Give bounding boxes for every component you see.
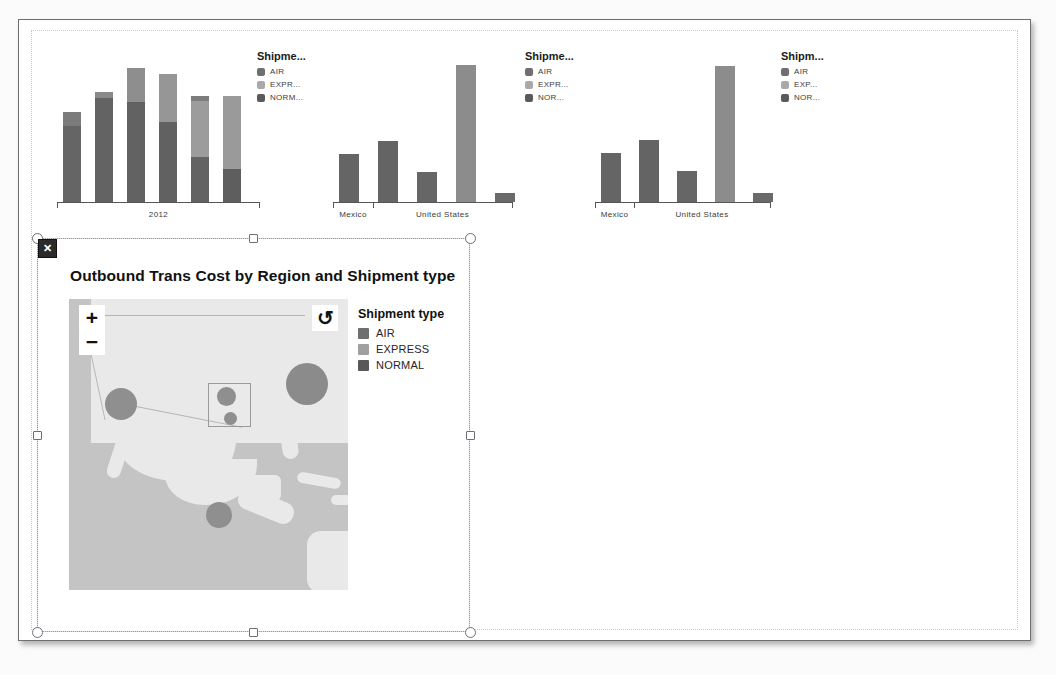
legend-item-air[interactable]: AIR xyxy=(781,67,824,76)
axis-tick xyxy=(333,202,334,208)
legend-swatch-air xyxy=(781,68,789,76)
bar-segment-normal xyxy=(95,98,113,202)
zoom-in-icon[interactable]: + xyxy=(86,306,98,330)
map-zoom-controls[interactable]: + − xyxy=(79,305,105,355)
mini-chart-1[interactable]: 2012 Shipme... AIR EXPR... NORM... xyxy=(39,34,329,214)
resize-handle-top-right[interactable] xyxy=(465,233,476,244)
bar-column[interactable] xyxy=(753,44,773,202)
bar-segment-normal xyxy=(127,102,145,202)
bar-column[interactable] xyxy=(715,44,735,202)
selected-visualization-panel[interactable]: Outbound Trans Cost by Region and Shipme… xyxy=(37,238,470,632)
legend-swatch-normal xyxy=(257,94,265,102)
axis-tick xyxy=(634,202,635,208)
legend-label: AIR xyxy=(270,67,284,76)
bar-column[interactable] xyxy=(639,44,659,202)
legend-label: NOR... xyxy=(794,93,820,102)
bar-column[interactable] xyxy=(495,44,515,202)
bar-column[interactable] xyxy=(339,44,359,202)
map-bubble-mexico[interactable] xyxy=(206,502,232,528)
zoom-out-icon[interactable]: − xyxy=(86,330,98,354)
x-axis-label-united-states: United States xyxy=(634,210,770,219)
axis-tick xyxy=(373,202,374,208)
axis-tick xyxy=(512,202,513,208)
legend-label: NORM... xyxy=(270,93,303,102)
legend-swatch-normal xyxy=(358,360,369,371)
delete-visualization-button[interactable]: ✕ xyxy=(38,239,57,258)
resize-handle-bottom-left[interactable] xyxy=(32,627,43,638)
bar-column[interactable] xyxy=(456,44,476,202)
legend-item-express[interactable]: EXPR... xyxy=(257,80,306,89)
bar-column[interactable] xyxy=(191,44,209,202)
axis-tick xyxy=(770,202,771,208)
resize-handle-bottom-right[interactable] xyxy=(465,627,476,638)
legend-title: Shipment type xyxy=(358,307,444,321)
legend-swatch-express xyxy=(358,344,369,355)
bar-column[interactable] xyxy=(601,44,621,202)
axis-tick xyxy=(595,202,596,208)
legend-item-express[interactable]: EXP... xyxy=(781,80,824,89)
x-axis-line xyxy=(595,202,771,203)
bar-column[interactable] xyxy=(417,44,437,202)
bar-column[interactable] xyxy=(677,44,697,202)
legend-label: EXPR... xyxy=(270,80,301,89)
bar-segment-normal xyxy=(495,193,515,202)
axis-tick xyxy=(259,202,260,208)
bar-segment-express xyxy=(127,68,145,102)
legend-title: Shipm... xyxy=(781,50,824,62)
legend-item-normal[interactable]: NORM... xyxy=(257,93,306,102)
bar-segment-normal xyxy=(223,169,241,202)
map-land-hispaniola xyxy=(331,495,348,505)
legend-swatch-air xyxy=(358,328,369,339)
legend-label: AIR xyxy=(538,67,552,76)
bar-segment-normal xyxy=(601,153,621,202)
map-bubble-east-coast[interactable] xyxy=(286,363,328,405)
bar-segment-normal xyxy=(417,172,437,202)
legend-item-air[interactable]: AIR xyxy=(358,327,444,339)
legend-label: AIR xyxy=(794,67,808,76)
mini-chart-2-bars xyxy=(339,44,531,202)
legend-item-normal[interactable]: NORMAL xyxy=(358,359,444,371)
bar-segment-normal xyxy=(715,66,735,202)
bubble-map[interactable]: + − ↺ xyxy=(69,299,348,590)
resize-handle-middle-left[interactable] xyxy=(33,431,42,440)
legend-label: NORMAL xyxy=(376,359,424,371)
legend-swatch-air xyxy=(525,68,533,76)
legend-item-express[interactable]: EXPRESS xyxy=(358,343,444,355)
map-bubble-central-small[interactable] xyxy=(224,412,237,425)
legend-item-air[interactable]: AIR xyxy=(257,67,306,76)
legend-label: EXP... xyxy=(794,80,817,89)
x-axis-line xyxy=(57,202,260,203)
bar-segment-normal xyxy=(159,122,177,202)
bar-column[interactable] xyxy=(127,44,145,202)
bar-segment-express xyxy=(191,101,209,157)
map-reset-icon[interactable]: ↺ xyxy=(312,305,338,331)
bar-segment-normal xyxy=(677,171,697,202)
bar-segment-normal xyxy=(378,141,398,202)
x-axis-label-mexico: Mexico xyxy=(595,210,634,219)
map-bubble-west-coast[interactable] xyxy=(105,388,137,420)
resize-handle-top-center[interactable] xyxy=(249,234,258,243)
map-bubble-central[interactable] xyxy=(217,387,236,406)
resize-handle-bottom-center[interactable] xyxy=(249,628,258,637)
x-axis-label-2012: 2012 xyxy=(57,210,260,219)
bar-column[interactable] xyxy=(95,44,113,202)
dashboard-window: 2012 Shipme... AIR EXPR... NORM... xyxy=(18,19,1031,641)
bar-column[interactable] xyxy=(63,44,81,202)
resize-handle-middle-right[interactable] xyxy=(466,431,475,440)
mini-chart-1-legend: Shipme... AIR EXPR... NORM... xyxy=(257,50,306,106)
mini-chart-3-bars xyxy=(601,44,787,202)
bar-column[interactable] xyxy=(378,44,398,202)
mini-chart-3[interactable]: Mexico United States Shipm... AIR EXP...… xyxy=(559,34,849,214)
bar-segment-normal xyxy=(456,65,476,202)
mini-chart-2[interactable]: Mexico United States Shipme... AIR EXPR.… xyxy=(307,34,597,214)
bar-column[interactable] xyxy=(223,44,241,202)
bar-segment-normal xyxy=(191,157,209,202)
bar-segment-normal xyxy=(639,140,659,202)
legend-swatch-normal xyxy=(781,94,789,102)
map-land-yucatan xyxy=(245,475,281,501)
bar-segment-normal xyxy=(753,193,773,202)
legend-swatch-express xyxy=(781,81,789,89)
bar-segment-express xyxy=(159,74,177,122)
bar-column[interactable] xyxy=(159,44,177,202)
legend-item-normal[interactable]: NOR... xyxy=(781,93,824,102)
